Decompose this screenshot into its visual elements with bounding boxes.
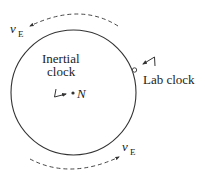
rotation-arc-bottom bbox=[30, 157, 119, 169]
center-point-dot bbox=[71, 91, 74, 94]
rotation-arc-top bbox=[30, 14, 118, 26]
velocity-label-top: v bbox=[10, 21, 16, 36]
velocity-subscript-bottom: E bbox=[130, 147, 136, 157]
center-point-label: N bbox=[76, 86, 87, 101]
lab-clock-marker bbox=[132, 68, 136, 72]
inertial-clock-label-line2: clock bbox=[47, 64, 76, 79]
inertial-clock-icon bbox=[55, 89, 67, 97]
velocity-subscript-top: E bbox=[18, 29, 24, 39]
velocity-label-bottom: v bbox=[122, 139, 128, 154]
lab-clock-label: Lab clock bbox=[143, 72, 195, 87]
lab-clock-icon bbox=[143, 57, 155, 66]
rotating-earth-diagram: v E v E Inertial clock N Lab clock bbox=[0, 0, 205, 180]
